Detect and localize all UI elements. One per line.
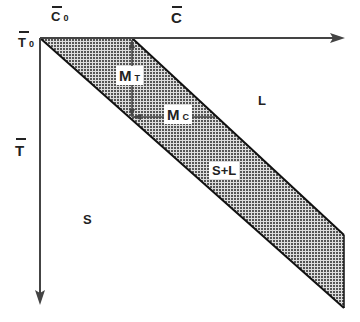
y-axis-overbar — [16, 138, 26, 140]
y-origin-label: T0 — [18, 36, 34, 49]
solidus-line — [40, 38, 344, 308]
x-origin-label: C0 — [51, 10, 68, 23]
diagram-canvas — [0, 0, 360, 322]
mushy-region-label: S+L — [209, 162, 239, 179]
y-axis-label: T — [15, 143, 24, 158]
phase-diagram: C0 C T0 T MT MC L S S+L — [0, 0, 360, 322]
mc-label: MC — [164, 105, 192, 124]
liquid-region-label: L — [258, 94, 266, 107]
x-axis-label: C — [171, 10, 182, 25]
solid-region-label: S — [83, 213, 92, 226]
x-axis-overbar — [172, 6, 182, 8]
y-origin-overbar — [19, 31, 29, 33]
x-origin-overbar — [52, 6, 62, 8]
mt-label: MT — [116, 66, 143, 85]
